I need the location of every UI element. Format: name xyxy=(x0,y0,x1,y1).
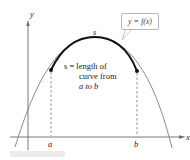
point-b xyxy=(135,69,139,73)
callout-seam xyxy=(127,27,132,29)
point-a xyxy=(49,68,53,72)
arc-label-s: s xyxy=(93,28,96,37)
curve-full xyxy=(15,37,172,148)
x-axis-arrow-icon xyxy=(179,135,186,138)
figure-caption-faint xyxy=(10,151,65,157)
y-axis-label: y xyxy=(30,10,34,19)
point-b-label: b xyxy=(134,140,138,149)
annotation-line-3: a to b xyxy=(79,82,98,92)
curve-label: y = f(x) xyxy=(128,17,152,26)
x-axis-label: x xyxy=(186,133,190,142)
y-axis-arrow-icon xyxy=(26,20,29,26)
point-a-label: a xyxy=(48,140,52,149)
